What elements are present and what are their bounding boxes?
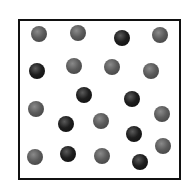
gray-particle (28, 101, 44, 117)
gray-particle (27, 149, 43, 165)
gray-particle (152, 27, 168, 43)
dark-particle (114, 30, 130, 46)
dark-particle (126, 126, 142, 142)
dark-particle (58, 116, 74, 132)
dark-particle (124, 91, 140, 107)
gray-particle (31, 26, 47, 42)
dark-particle (60, 146, 76, 162)
gray-particle (94, 148, 110, 164)
dark-particle (29, 63, 45, 79)
dark-particle (76, 87, 92, 103)
gray-particle (93, 113, 109, 129)
gray-particle (70, 25, 86, 41)
gray-particle (155, 138, 171, 154)
gray-particle (104, 59, 120, 75)
dark-particle (132, 154, 148, 170)
gray-particle (143, 63, 159, 79)
gray-particle (66, 58, 82, 74)
gray-particle (154, 106, 170, 122)
